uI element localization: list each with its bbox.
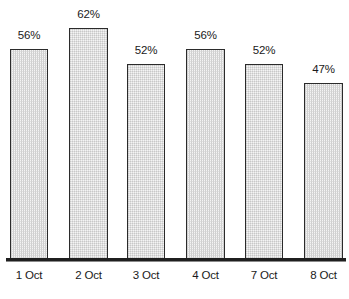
- bar-fill-pattern: [187, 50, 224, 258]
- x-tick-label-7-oct: 7 Oct: [240, 269, 288, 281]
- value-label-3-oct: 52%: [127, 44, 165, 56]
- x-tick-label-3-oct: 3 Oct: [122, 269, 170, 281]
- plot-area: 56% 62% 52% 56% 52% 47% 1 Oct 2 Oct: [0, 0, 349, 299]
- bar-fill-pattern: [128, 65, 164, 258]
- bar-chart: 56% 62% 52% 56% 52% 47% 1 Oct 2 Oct: [0, 0, 349, 299]
- bar-2-oct[interactable]: [69, 28, 108, 259]
- bar-8-oct[interactable]: [304, 83, 343, 259]
- x-axis-line-shadow: [6, 261, 346, 262]
- bar-3-oct[interactable]: [127, 64, 165, 259]
- value-label-1-oct: 56%: [10, 29, 48, 41]
- x-tick-label-8-oct: 8 Oct: [299, 269, 348, 281]
- value-label-4-oct: 56%: [186, 29, 225, 41]
- bar-1-oct[interactable]: [10, 49, 48, 259]
- x-tick-label-4-oct: 4 Oct: [181, 269, 230, 281]
- x-tick-label-2-oct: 2 Oct: [64, 269, 113, 281]
- x-tick-label-1-oct: 1 Oct: [5, 269, 53, 281]
- bar-fill-pattern: [11, 50, 47, 258]
- value-label-8-oct: 47%: [304, 63, 343, 75]
- bar-fill-pattern: [246, 65, 282, 258]
- value-label-7-oct: 52%: [245, 44, 283, 56]
- value-label-2-oct: 62%: [69, 8, 108, 20]
- bar-4-oct[interactable]: [186, 49, 225, 259]
- bar-7-oct[interactable]: [245, 64, 283, 259]
- bar-fill-pattern: [70, 29, 107, 258]
- bar-fill-pattern: [305, 84, 342, 258]
